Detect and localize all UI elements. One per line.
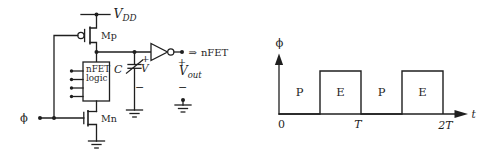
inverter-bubble-icon	[168, 49, 174, 55]
time-tick-labels: 0 T 2T	[278, 118, 454, 133]
tick-label-T: T	[354, 118, 363, 131]
vout-annotation: + Vout −	[175, 56, 202, 113]
inverter-output-dot	[180, 50, 184, 54]
x-axis-label: t	[472, 108, 477, 120]
ground-symbol-vout	[175, 105, 191, 112]
vdd-label: VDD	[114, 6, 137, 23]
y-axis-arrow-icon	[275, 54, 283, 66]
phase-label-precharge-1: P	[296, 85, 304, 99]
logic-label-line2: logic	[86, 73, 108, 83]
mn-label: Mn	[101, 113, 117, 124]
storage-capacitor: C + V −	[114, 52, 150, 117]
mp-label: Mp	[101, 30, 117, 41]
waveform-axes: ϕ t	[275, 36, 477, 120]
figure-svg: VDD Mp nFET logic	[0, 0, 502, 158]
ground-symbol-mn	[89, 141, 105, 148]
vdd-rail: VDD	[81, 6, 137, 23]
y-axis-label: ϕ	[276, 36, 284, 50]
phase-label-precharge-2: P	[378, 85, 386, 99]
output-inverter: ⇒nFET	[151, 44, 229, 61]
phase-label-evaluate-1: E	[336, 85, 344, 99]
mp-source-wire	[90, 15, 97, 29]
nmos-transistor-mn: Mn	[84, 110, 117, 148]
vout-minus-sign: −	[178, 81, 187, 94]
cap-label: C	[114, 63, 123, 76]
mp-gate-bubble-icon	[78, 32, 84, 38]
vout-label: Vout	[179, 64, 202, 80]
clock-waveform-chart: ϕ t P E P E 0 T 2T	[275, 36, 477, 132]
mp-gate-wire	[54, 36, 78, 119]
clock-input: ϕ	[20, 111, 84, 125]
tick-label-2T: 2T	[437, 119, 454, 132]
ground-symbol-cap	[127, 110, 143, 117]
implies-arrow-icon: ⇒	[189, 47, 198, 58]
mn-source-wire	[88, 125, 97, 142]
dynamic-logic-circuit: VDD Mp nFET logic	[20, 6, 228, 149]
tick-label-origin: 0	[278, 118, 285, 131]
x-axis-arrow-icon	[455, 110, 469, 118]
nfet-logic-block: nFET logic	[70, 52, 110, 112]
dynamic-logic-figure: VDD Mp nFET logic	[0, 0, 502, 158]
inverter-triangle-icon	[151, 44, 168, 61]
cap-minus-sign: −	[135, 81, 144, 94]
output-drive-annotation: ⇒nFET	[189, 47, 229, 58]
logic-input-stubs	[70, 69, 83, 98]
clock-label: ϕ	[20, 111, 28, 125]
phase-label-evaluate-2: E	[418, 85, 426, 99]
clock-junction-dot	[52, 116, 56, 120]
